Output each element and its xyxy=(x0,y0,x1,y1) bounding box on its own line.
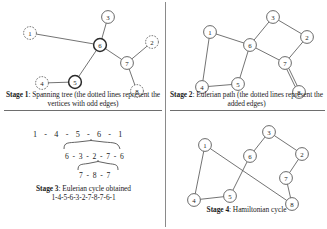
graph-edge xyxy=(289,42,303,58)
graph-stage-1: 12345678 xyxy=(0,0,166,100)
graph-node-label: 5 xyxy=(73,79,77,86)
caption-stage-4: Stage 4: Hamiltonian cycle xyxy=(168,205,325,214)
graph-node-label: 7 xyxy=(283,60,287,67)
euler-cycle-result: 1-4-5-6-3-2-7-8-7-6-1 xyxy=(51,193,115,202)
graph-node-label: 3 xyxy=(271,14,275,21)
caption-label-stage-3: Stage 3 xyxy=(36,184,58,193)
caption-label-stage-2: Stage 2 xyxy=(170,90,192,99)
graph-node-label: 6 xyxy=(248,153,252,160)
graph-node-label: 3 xyxy=(267,129,271,136)
graph-edge xyxy=(200,197,223,200)
graph-edge xyxy=(279,20,302,34)
caption-text-stage-4: : Hamiltonian cycle xyxy=(229,205,286,214)
graph-node-label: 4 xyxy=(192,197,196,204)
graph-edge xyxy=(36,34,93,44)
graph-edge xyxy=(195,151,203,193)
brace-lower xyxy=(76,160,124,171)
graph-node-label: 5 xyxy=(236,81,240,88)
euler-expression-row-1: 1 - 4 - 5 - 6 - 1 xyxy=(33,130,125,139)
graph-edge xyxy=(274,136,296,151)
graph-edge xyxy=(233,162,247,191)
graph-node-label: 5 xyxy=(228,193,232,200)
graph-edge xyxy=(79,50,97,76)
graph-node-label: 2 xyxy=(300,151,304,158)
graph-edge xyxy=(240,51,248,78)
graph-edge xyxy=(203,38,209,80)
graph-edge xyxy=(129,69,135,85)
graph-node-label: 1 xyxy=(28,30,31,37)
caption-label-stage-1: Stage 1 xyxy=(6,90,28,99)
caption-stage-2: Stage 2: Eulerian path (the dotted lines… xyxy=(168,90,325,109)
graph-edge xyxy=(289,68,297,85)
caption-text-stage-3: : Eulerian cycle obtained xyxy=(59,184,131,193)
graph-node-label: 6 xyxy=(98,42,102,49)
graph-node-label: 1 xyxy=(203,142,206,149)
graph-node-label: 2 xyxy=(150,39,154,46)
caption-stage-1: Stage 1: Spanning tree (the dotted lines… xyxy=(2,90,164,109)
graph-edge xyxy=(287,69,295,86)
graph-edge xyxy=(287,184,290,198)
graph-edge xyxy=(105,49,121,60)
graph-edge xyxy=(256,48,280,60)
euler-expression-row-3: 7 - 8 - 7 xyxy=(79,171,111,180)
graph-edge xyxy=(290,159,299,172)
graph-node-label: 4 xyxy=(40,80,44,87)
graph-edge xyxy=(132,46,147,59)
graph-edge xyxy=(48,82,68,83)
graph-node-label: 7 xyxy=(125,60,129,67)
graph-node-label: 7 xyxy=(284,175,288,182)
graph-edge xyxy=(102,23,106,39)
graph-node-label: 1 xyxy=(208,29,211,36)
graph-edge xyxy=(254,137,265,151)
graph-node-label: 2 xyxy=(305,34,309,41)
caption-text-stage-1: : Spanning tree (the dotted lines repres… xyxy=(28,90,160,108)
graph-stage-2: 12345678 xyxy=(166,0,327,100)
graph-edge xyxy=(254,22,269,40)
brace-upper xyxy=(62,139,124,150)
figure-canvas: 12345678 Stage 1: Spanning tree (the dot… xyxy=(0,0,327,229)
graph-edge xyxy=(216,34,244,43)
caption-label-stage-4: Stage 4 xyxy=(207,205,229,214)
caption-text-stage-2: : Eulerian path (the dotted lines repres… xyxy=(193,90,323,108)
caption-stage-3: Stage 3: Eulerian cycle obtained 1-4-5-6… xyxy=(6,184,161,203)
graph-node-label: 3 xyxy=(106,14,110,21)
graph-node-label: 6 xyxy=(248,42,252,49)
graph-edge xyxy=(208,85,231,87)
